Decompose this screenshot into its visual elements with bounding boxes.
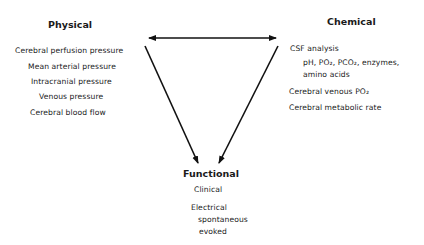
physical-item: Intracranial pressure bbox=[31, 77, 112, 86]
node-physical-title: Physical bbox=[48, 19, 92, 30]
node-functional-title: Functional bbox=[183, 168, 239, 179]
chemical-item: pH, PO₂, PCO₂, enzymes, bbox=[303, 58, 399, 67]
functional-item: Clinical bbox=[194, 185, 222, 194]
physical-item: Mean arterial pressure bbox=[28, 62, 116, 71]
functional-item: spontaneous bbox=[198, 215, 248, 224]
physical-item: Venous pressure bbox=[39, 92, 103, 101]
chemical-item: Cerebral metabolic rate bbox=[289, 103, 381, 112]
functional-item: evoked bbox=[199, 227, 227, 236]
physical-item: Cerebral blood flow bbox=[30, 108, 106, 117]
physical-item: Cerebral perfusion pressure bbox=[15, 46, 123, 55]
chemical-item: amino acids bbox=[303, 70, 350, 79]
chemical-item: CSF analysis bbox=[290, 44, 339, 53]
functional-item: Electrical bbox=[191, 203, 227, 212]
chemical-item: Cerebral venous PO₂ bbox=[289, 87, 369, 96]
arrow-physical-functional bbox=[145, 46, 198, 163]
node-chemical-title: Chemical bbox=[327, 16, 376, 27]
arrow-chemical-functional bbox=[219, 46, 278, 163]
